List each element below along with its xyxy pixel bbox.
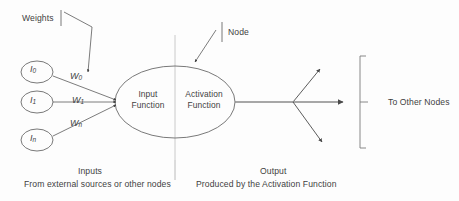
output-branch-up	[293, 69, 320, 102]
weight-symbol-0: W	[70, 71, 79, 81]
input-function-line2: Function	[132, 100, 165, 110]
input-connection-0	[53, 76, 116, 100]
weight-label-2: Wn	[70, 118, 82, 128]
activation-function-line2: Function	[188, 100, 221, 110]
input-connection-2	[53, 105, 116, 136]
inputs-caption-heading: Inputs	[78, 166, 102, 176]
input-node-circle-0	[21, 61, 53, 83]
input-node-label-1: I1	[30, 95, 36, 105]
input-node-subscript-2: n	[33, 136, 37, 143]
weight-subscript-1: 1	[81, 98, 85, 105]
input-node-label-2: In	[30, 133, 36, 143]
weight-label-0: W0	[70, 71, 82, 81]
weight-symbol-2: W	[70, 118, 79, 128]
neuron-diagram: Weights Node To Other Nodes Input Functi…	[0, 0, 459, 201]
weights-annotation-label: Weights	[22, 13, 54, 23]
activation-function-label: Activation Function	[178, 89, 230, 111]
output-caption-subtext: Produced by the Activation Function	[196, 179, 337, 189]
input-node-circle-1	[21, 91, 53, 113]
activation-function-line1: Activation	[185, 89, 222, 99]
node-leader-line	[195, 30, 216, 62]
output-branch-down	[293, 102, 322, 142]
weight-symbol-1: W	[72, 95, 81, 105]
inputs-caption-subtext: From external sources or other nodes	[24, 179, 171, 189]
output-caption-heading: Output	[260, 166, 286, 176]
weight-subscript-2: n	[79, 121, 83, 128]
node-annotation-label: Node	[228, 27, 249, 37]
to-other-nodes-label: To Other Nodes	[388, 97, 450, 107]
weight-subscript-0: 0	[79, 74, 83, 81]
input-node-subscript-1: 1	[33, 98, 37, 105]
input-node-label-0: I0	[30, 64, 36, 74]
input-node-circle-2	[21, 129, 53, 151]
input-node-subscript-0: 0	[33, 67, 37, 74]
input-function-line1: Input	[138, 89, 157, 99]
input-function-label: Input Function	[126, 89, 170, 111]
weight-label-1: W1	[72, 95, 84, 105]
weights-leader-line	[64, 12, 92, 72]
